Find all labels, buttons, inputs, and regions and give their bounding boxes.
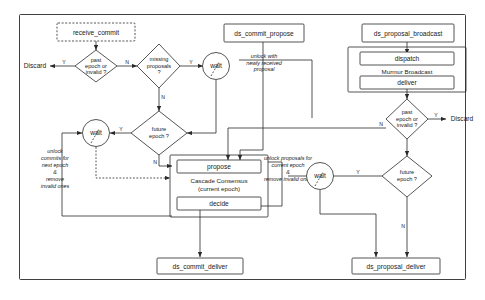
node-ds-proposal-broadcast: ds_proposal_broadcast	[362, 24, 454, 42]
node-ds-commit-deliver: ds_commit_deliver	[157, 258, 243, 274]
edge-label-commit-future-yes: Y	[119, 126, 123, 132]
annotation-unlock-with-proposal-line2: newly received	[246, 60, 283, 66]
group-cascade-consensus: propose Cascade Consensus (current epoch…	[170, 155, 268, 217]
node-decide-label: decide	[209, 200, 229, 207]
terminal-discard-proposal: Discard	[451, 115, 474, 122]
node-propose-label: propose	[207, 163, 231, 171]
edge-label-proposal-past-no: N	[379, 121, 383, 127]
annotation-unlock-commits-line1: unlock	[47, 148, 63, 154]
annotation-unlock-proposals-line2: current epoch	[272, 162, 305, 168]
decision-commit-future-epoch-line2: epoch ?	[149, 133, 169, 139]
decision-proposal-past-epoch: past epoch or invalid ?	[386, 99, 428, 139]
annotation-unlock-commits-line2: commits for	[41, 155, 69, 161]
edge-label-missing-yes: Y	[189, 59, 193, 65]
edge-label-proposal-past-yes: Y	[434, 112, 438, 118]
group-murmur-broadcast-label: Murmur Broadcast	[382, 68, 433, 75]
annotation-unlock-with-proposal: unlock with newly received proposal	[246, 53, 283, 72]
annotation-unlock-commits-line5: remove	[46, 176, 64, 182]
wait-commit-future-label: wait	[89, 129, 102, 136]
decision-commit-future-epoch-line1: future	[152, 126, 166, 132]
decision-missing-proposals-line1: missing	[150, 56, 169, 62]
node-ds-commit-propose: ds_commit_propose	[224, 24, 304, 42]
edge-label-proposal-future-yes: Y	[356, 169, 360, 175]
group-murmur-broadcast: dispatch Murmur Broadcast deliver	[348, 47, 466, 92]
node-ds-proposal-deliver-label: ds_proposal_deliver	[366, 263, 426, 271]
group-cascade-consensus-label-line2: (current epoch)	[198, 185, 240, 192]
node-ds-commit-deliver-label: ds_commit_deliver	[173, 263, 229, 271]
diagram-canvas: receive_commit Discard past epoch or inv…	[0, 0, 485, 300]
decision-proposal-past-epoch-line1: past	[402, 109, 413, 115]
annotation-unlock-with-proposal-line1: unlock with	[251, 53, 278, 59]
decision-missing-proposals-line3: ?	[157, 69, 160, 75]
wait-missing-proposals: wait	[203, 53, 230, 80]
decision-missing-proposals: missing proposals ?	[137, 44, 180, 88]
decision-proposal-future-epoch: future epoch ?	[382, 156, 432, 197]
annotation-unlock-commits-line6: invalid ones	[41, 183, 70, 189]
wait-proposal-future: wait	[307, 163, 334, 190]
decision-proposal-future-epoch-line1: future	[400, 169, 414, 175]
node-ds-commit-propose-label: ds_commit_propose	[234, 30, 294, 38]
annotation-unlock-commits-line4: &	[53, 169, 57, 175]
group-cascade-consensus-label-line1: Cascade Consensus	[190, 177, 247, 184]
edge-label-missing-no: N	[161, 94, 165, 100]
node-receive-commit-label: receive_commit	[73, 29, 119, 37]
annotation-unlock-proposals-current-epoch: unlock proposals for current epoch & rem…	[264, 155, 312, 182]
decision-commit-past-epoch: past epoch or invalid ?	[75, 50, 117, 82]
edge-label-commit-past-no: N	[125, 59, 129, 65]
node-dispatch-label: dispatch	[395, 55, 420, 63]
decision-commit-past-epoch-line3: invalid ?	[86, 69, 107, 75]
node-deliver-label: deliver	[397, 79, 417, 86]
wait-proposal-future-label: wait	[313, 172, 326, 179]
edge-label-commit-future-no: N	[153, 159, 157, 165]
terminal-discard-commit: Discard	[24, 62, 47, 69]
annotation-unlock-proposals-line1: unlock proposals for	[264, 155, 312, 161]
node-ds-proposal-broadcast-label: ds_proposal_broadcast	[374, 30, 443, 38]
wait-missing-proposals-label: wait	[209, 62, 222, 69]
annotation-unlock-with-proposal-line3: proposal	[253, 66, 275, 72]
annotation-unlock-proposals-line4: remove invalid ones	[264, 176, 312, 182]
decision-proposal-past-epoch-line3: invalid ?	[397, 122, 418, 128]
decision-proposal-future-epoch-line2: epoch ?	[397, 176, 417, 182]
edge-label-commit-past-yes: Y	[62, 59, 66, 65]
node-receive-commit: receive_commit	[57, 23, 135, 41]
edge-label-proposal-future-no: N	[401, 223, 405, 229]
decision-commit-future-epoch: future epoch ?	[131, 111, 187, 155]
decision-proposal-past-epoch-line2: epoch or	[396, 116, 418, 122]
wait-commit-future: wait	[83, 120, 110, 147]
annotation-unlock-commits-next-epoch: unlock commits for next epoch & remove i…	[41, 148, 70, 189]
node-ds-proposal-deliver: ds_proposal_deliver	[352, 258, 440, 274]
annotation-unlock-proposals-line3: &	[286, 169, 290, 175]
annotation-unlock-commits-line3: next epoch	[42, 162, 68, 168]
decision-missing-proposals-line2: proposals	[147, 63, 171, 69]
